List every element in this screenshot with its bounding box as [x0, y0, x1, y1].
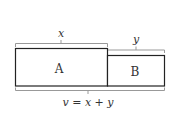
box-a-label: A	[54, 62, 64, 76]
bracket-x-label: x	[58, 27, 65, 40]
bracket-y-label: y	[132, 33, 140, 46]
bracket-sum-label: v = x + y	[62, 96, 114, 109]
diagram-canvas: x y A B v = x + y	[0, 0, 177, 119]
bracket-x: x	[16, 27, 108, 47]
box-b-label: B	[131, 65, 140, 79]
bracket-sum: v = x + y	[16, 88, 165, 110]
box-a: A	[16, 49, 108, 87]
box-b: B	[108, 56, 165, 87]
bracket-y: y	[108, 33, 165, 53]
